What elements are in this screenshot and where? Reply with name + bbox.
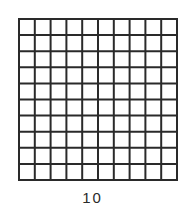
ten-by-ten-grid — [18, 18, 178, 181]
grid-label: 10 — [0, 190, 185, 204]
grid-lines — [18, 18, 178, 181]
